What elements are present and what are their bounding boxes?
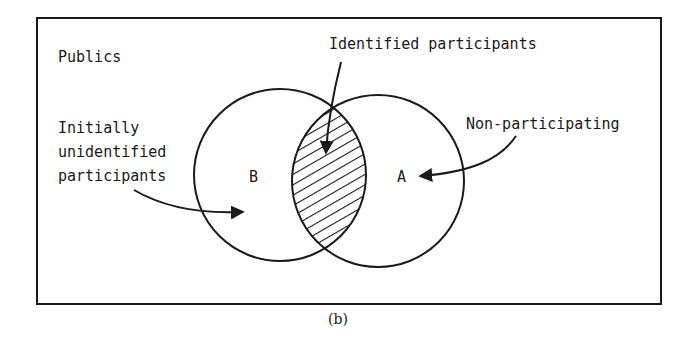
set-a-arrow (421, 136, 516, 176)
frame-title: Publics (58, 48, 121, 66)
set-a-annotation: Non-participating (466, 115, 620, 133)
figure-caption: (b) (328, 311, 348, 327)
set-b-annotation-line2: unidentified (58, 143, 166, 161)
set-b-annotation-line1: Initially (58, 119, 139, 137)
set-b-label: B (249, 168, 258, 186)
set-a-label: A (397, 168, 406, 186)
set-b-annotation-line3: participants (58, 167, 166, 185)
intersection-label: Identified participants (329, 35, 537, 53)
venn-diagram: Publics Identified participants Non-part… (0, 0, 692, 341)
set-b-arrow (134, 190, 242, 212)
